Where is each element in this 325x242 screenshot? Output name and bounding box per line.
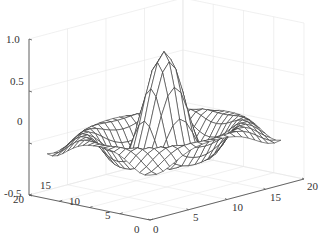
x-tick-label: 10: [232, 202, 243, 213]
y-tick-label: 0: [134, 224, 140, 235]
surface-mesh: [47, 52, 281, 176]
x-tick-label: 5: [193, 212, 199, 223]
x-tick-label: 15: [270, 192, 281, 203]
y-tick-label: 5: [105, 210, 111, 221]
y-tick: [59, 200, 62, 201]
x-tick-label: 0: [153, 224, 159, 235]
z-tick: [29, 91, 32, 92]
y-tick: [90, 207, 93, 208]
y-tick: [120, 213, 123, 214]
z-tick: [29, 143, 32, 144]
z-tick-label: 1.0: [6, 34, 20, 45]
z-tick-label: 0.5: [10, 76, 24, 87]
y-tick-label: 15: [40, 180, 51, 191]
y-tick: [150, 219, 153, 220]
y-tick-label: 10: [69, 196, 80, 207]
x-tick-label: 20: [307, 181, 318, 192]
y-tick-label: 20: [13, 194, 24, 205]
surface-plot: [0, 0, 325, 242]
y-tick: [29, 194, 32, 195]
z-tick: [29, 39, 32, 40]
z-tick-label: 0: [17, 116, 23, 127]
